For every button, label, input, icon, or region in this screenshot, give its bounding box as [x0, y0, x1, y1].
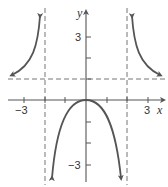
axes [8, 12, 163, 182]
y-tick-label-3: 3 [75, 31, 81, 43]
x-axis-label: x [156, 103, 163, 117]
y-tick-label-neg3: −3 [68, 159, 81, 171]
x-tick-label-3: 3 [144, 104, 150, 116]
y-axis-label: y [76, 6, 83, 20]
function-graph: y x −3 3 3 −3 [0, 0, 168, 187]
left-branch [12, 16, 40, 75]
right-branch [132, 16, 160, 75]
x-tick-label-neg3: −3 [15, 104, 28, 116]
